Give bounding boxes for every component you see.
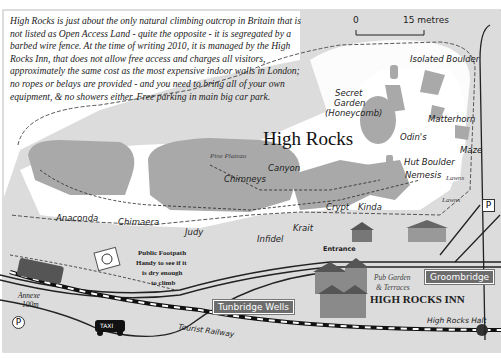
footpath-label: Handy to see if it (136, 259, 187, 267)
area-lawns: Lawns (446, 174, 464, 182)
inn-label: HIGH ROCKS INN (370, 293, 465, 305)
scale-end: 15 metres (403, 15, 449, 25)
footpath-label: Public Footpath (138, 249, 186, 257)
route-secret-garden: Garden (334, 98, 365, 108)
sign-groombridge: Groombridge (425, 270, 494, 284)
route-chimneys: Chimneys (224, 174, 266, 184)
route-matterhorn: Matterhorn (428, 114, 475, 124)
route-secret-garden: (Honeycomb) (325, 108, 382, 118)
route-maze: Maze (460, 145, 482, 155)
route-secret-garden: Secret (335, 88, 362, 98)
footpath-label: to climb (151, 279, 175, 287)
area-pine-plateau: Pine Plateau (210, 152, 246, 160)
parking-icon: P (482, 199, 495, 212)
annexe-label: 100m (22, 300, 39, 309)
parking-icon: P (12, 316, 25, 329)
route-judy: Judy (185, 227, 203, 237)
annexe-label: Annexe (18, 291, 40, 300)
taxi-label: TAXI (100, 322, 113, 329)
route-krait: Krait (293, 223, 313, 233)
intro-description: High Rocks is just about the only natura… (10, 15, 310, 103)
route-anaconda: Anaconda (56, 213, 98, 223)
route-isolated-boulder: Isolated Boulder (410, 54, 479, 64)
route-crypt: Crypt (326, 202, 349, 212)
route-kinda: Kinda (358, 202, 382, 212)
route-canyon: Canyon (268, 163, 300, 173)
route-nemesis: Nemesis (405, 170, 441, 180)
halt-label: High Rocks Halt (427, 316, 486, 325)
pub-garden-label: Pub Garden (374, 273, 411, 282)
footpath-label: is dry enough (142, 269, 182, 277)
scale-start: 0 (353, 15, 359, 25)
route-infidel: Infidel (257, 234, 283, 244)
route-hut-boulder: Hut Boulder (404, 157, 455, 167)
area-lawns: Lawns (442, 196, 460, 204)
map-title: High Rocks (263, 128, 353, 150)
pub-garden-label: & Terraces (376, 283, 410, 292)
route-odins: Odin's (400, 132, 427, 142)
entrance-label: Entrance (323, 245, 356, 253)
sign-tunbridge-wells: Tunbridge Wells (213, 300, 294, 314)
route-chimaera: Chimaera (118, 217, 159, 227)
